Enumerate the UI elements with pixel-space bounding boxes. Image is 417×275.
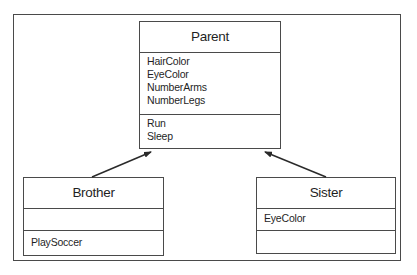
arrow-brother-to-parent bbox=[92, 152, 151, 177]
inheritance-arrows bbox=[0, 0, 417, 275]
arrow-sister-to-parent bbox=[265, 152, 326, 177]
